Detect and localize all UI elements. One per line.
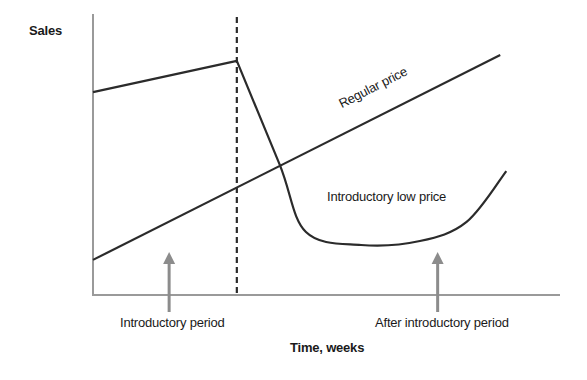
x-axis-label: Time, weeks — [290, 340, 364, 355]
introductory-low-price-curve — [93, 61, 506, 246]
y-axis-label: Sales — [29, 23, 62, 38]
after-introductory-period-label: After introductory period — [375, 315, 509, 330]
arrow-head — [432, 252, 444, 264]
arrow-head — [163, 252, 175, 264]
introductory-period-label: Introductory period — [120, 315, 225, 330]
introductory-period-arrow-icon — [163, 252, 175, 312]
introductory-low-price-label: Introductory low price — [327, 189, 446, 204]
after-introductory-period-arrow-icon — [432, 252, 444, 312]
regular-price-line — [93, 55, 500, 260]
